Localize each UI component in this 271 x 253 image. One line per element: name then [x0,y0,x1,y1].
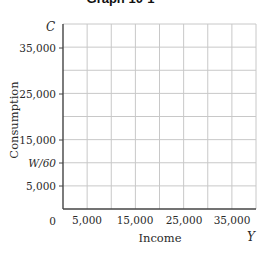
y-tick-label: 5,000 [26,180,56,192]
x-tick-label: 35,000 [214,214,251,226]
y-axis-title: Consumption [7,81,21,158]
y-axis-symbol: C [46,20,55,34]
x-tick-label: 15,000 [117,214,154,226]
y-tick-label: 15,000 [19,134,56,146]
origin-label: 0 [49,215,56,227]
y-tick-label: W/60 [28,157,56,169]
chart-title: Graph 10-1 [0,0,271,6]
x-axis-symbol: Y [247,230,255,244]
y-tick-label: 35,000 [19,42,56,54]
x-tick-label: 5,000 [72,214,102,226]
x-axis-title: Income [138,231,181,245]
y-tick-label: 25,000 [19,88,56,100]
x-tick-label: 25,000 [166,214,203,226]
plot-area [63,24,256,209]
grid [63,24,256,209]
